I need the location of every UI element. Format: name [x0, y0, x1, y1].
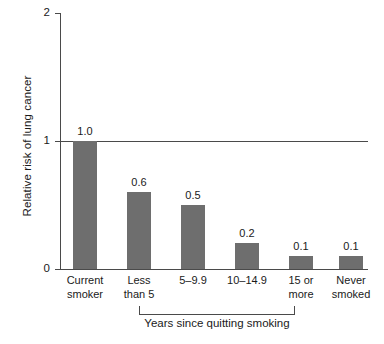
x-axis-line: [60, 269, 368, 270]
x-tick-label-line2: smoked: [321, 288, 381, 302]
y-tick-mark-0: [55, 269, 61, 270]
x-tick-label-less-than-5: Less than 5: [109, 274, 169, 301]
x-tick-label-line1: Current: [67, 274, 104, 286]
bar-value-less-than-5: 0.6: [117, 177, 161, 188]
y-tick-mark-2: [55, 13, 61, 14]
bar-never-smoked: [339, 256, 363, 269]
group-bracket-label: Years since quitting smoking: [60, 318, 374, 330]
x-tick-label-line1: 15 or: [288, 274, 313, 286]
x-tick-label-line1: 5–9.9: [179, 274, 207, 286]
x-tick-label-line1: 10–14.9: [227, 274, 267, 286]
bar-15-or-more: [289, 256, 313, 269]
bar-chart-figure: Relative risk of lung cancer 2 1 0 1.0 0…: [0, 0, 384, 344]
bar-value-10-to-14-9: 0.2: [225, 228, 269, 239]
bar-less-than-5: [127, 192, 151, 269]
bar-value-15-or-more: 0.1: [279, 241, 323, 252]
bar-10-to-14-9: [235, 243, 259, 269]
bar-value-current-smoker: 1.0: [63, 126, 107, 137]
x-tick-label-5-to-9-9: 5–9.9: [163, 274, 223, 288]
bar-current-smoker: [73, 141, 97, 269]
x-tick-label-line2: smoker: [55, 288, 115, 302]
y-tick-mark-1: [55, 141, 61, 142]
reference-line-at-one: [60, 141, 368, 142]
bar-value-never-smoked: 0.1: [329, 241, 373, 252]
bar-5-to-9-9: [181, 205, 205, 269]
group-bracket: [139, 306, 295, 315]
x-tick-label-line1: Less: [127, 274, 150, 286]
y-tick-label-1: 1: [30, 135, 50, 147]
x-tick-label-current-smoker: Current smoker: [55, 274, 115, 301]
x-tick-label-line1: Never: [336, 274, 365, 286]
bar-value-5-to-9-9: 0.5: [171, 190, 215, 201]
y-tick-label-2: 2: [30, 7, 50, 19]
y-tick-label-0: 0: [30, 263, 50, 275]
x-tick-label-never-smoked: Never smoked: [321, 274, 381, 301]
x-tick-label-10-to-14-9: 10–14.9: [217, 274, 277, 288]
x-tick-label-line2: than 5: [109, 288, 169, 302]
